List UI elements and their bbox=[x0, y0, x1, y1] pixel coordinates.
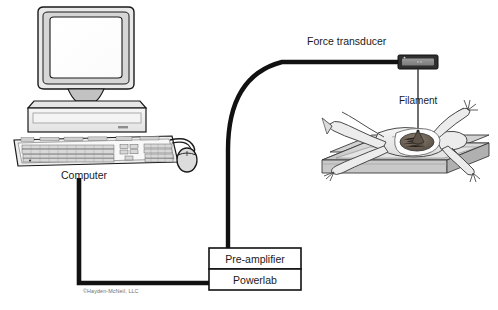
label-filament: Filament bbox=[399, 96, 437, 106]
muscle-physiology-diagram: Computer Force transducer Filament Pre-a… bbox=[0, 0, 498, 310]
monitor-icon bbox=[38, 7, 134, 101]
computer-case-icon bbox=[28, 101, 146, 132]
keyboard-icon bbox=[14, 136, 178, 166]
computer-to-powerlab-cable bbox=[79, 178, 209, 283]
label-force-transducer: Force transducer bbox=[307, 36, 386, 47]
label-powerlab: Powerlab bbox=[213, 275, 297, 286]
force-transducer-icon bbox=[398, 55, 438, 69]
specimen-illustration bbox=[322, 100, 489, 182]
label-computer: Computer bbox=[61, 170, 107, 181]
computer-illustration bbox=[14, 7, 197, 172]
label-pre-amplifier: Pre-amplifier bbox=[213, 254, 297, 265]
copyright-notice: ©Hayden-McNeil, LLC bbox=[83, 289, 139, 294]
